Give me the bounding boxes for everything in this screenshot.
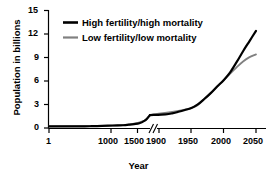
x-tick-label-1900: 1900 xyxy=(146,136,166,146)
series-line-high-fertility xyxy=(150,31,256,115)
y-axis-ticks xyxy=(44,11,49,129)
series-line-low-fertility xyxy=(150,54,256,115)
series-line-high-fertility-pre-break xyxy=(49,115,150,126)
legend-label-high-fertility: High fertility/high mortality xyxy=(82,17,203,28)
x-axis-title: Year xyxy=(0,160,277,171)
x-tick-label-1: 1 xyxy=(46,136,51,146)
x-tick-label-1000: 1000 xyxy=(98,136,118,146)
x-axis-ticks xyxy=(49,129,256,134)
x-tick-label-2050: 2050 xyxy=(243,136,263,146)
axis-break-icon xyxy=(149,124,158,133)
y-tick-label-3: 3 xyxy=(34,99,39,109)
x-tick-label-1500: 1500 xyxy=(124,136,144,146)
y-tick-label-12: 12 xyxy=(28,28,38,38)
y-axis-title: Population in billions xyxy=(11,8,22,128)
y-tick-label-9: 9 xyxy=(34,52,39,62)
x-tick-label-2000: 2000 xyxy=(211,136,231,146)
legend-label-low-fertility: Low fertility/low mortality xyxy=(82,32,197,43)
y-tick-label-0: 0 xyxy=(34,122,39,132)
y-tick-label-15: 15 xyxy=(28,5,38,15)
x-tick-label-1950: 1950 xyxy=(178,136,198,146)
y-tick-label-6: 6 xyxy=(34,75,39,85)
population-projection-chart: 15 12 9 6 3 0 1 1000 1500 1900 1950 2000… xyxy=(0,0,277,181)
